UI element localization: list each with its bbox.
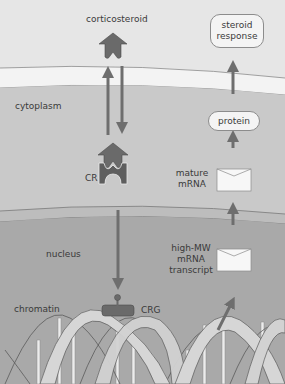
diagram-canvas [0, 0, 285, 384]
protein-box: protein [208, 111, 260, 131]
label-crg: CRG [141, 305, 161, 316]
label-cr: CR [85, 173, 98, 184]
label-corticosteroid: corticosteroid [86, 14, 148, 25]
diagram: corticosteroid cytoplasm CR nucleus chro… [0, 0, 285, 384]
steroid-response-box: steroid response [210, 14, 264, 48]
label-mature-mrna: mature mRNA [172, 168, 212, 190]
label-high-mw-transcript: high-MW mRNA transcript [166, 243, 216, 276]
mature-mrna-envelope-icon [217, 169, 251, 191]
label-chromatin: chromatin [14, 304, 60, 315]
label-nucleus: nucleus [46, 249, 81, 260]
high-mw-transcript-envelope-icon [217, 249, 251, 271]
label-cytoplasm: cytoplasm [15, 101, 62, 112]
